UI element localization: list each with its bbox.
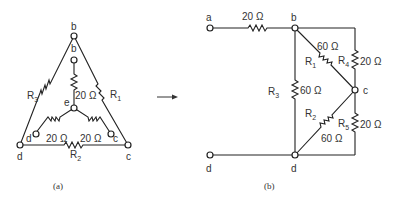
transform-arrow-icon xyxy=(157,95,178,100)
label-c-inner: c xyxy=(113,133,118,144)
resistor-ed-a xyxy=(35,108,74,134)
node-c-outer xyxy=(125,142,131,148)
caption-a: (a) xyxy=(53,181,63,191)
caption-b: (b) xyxy=(264,181,275,191)
label-r1-a: R1 xyxy=(110,89,121,102)
label-r3-value: 60 Ω xyxy=(300,85,322,96)
resistor-ec-a xyxy=(74,108,111,134)
resistor-ab-b xyxy=(210,25,295,31)
label-d-right: d xyxy=(291,163,297,174)
node-d-outer xyxy=(17,142,23,148)
resistor-r5-b xyxy=(352,90,358,155)
resistor-r4-b xyxy=(352,28,358,90)
label-ed-value: 20 Ω xyxy=(46,133,68,144)
label-b-inner: b xyxy=(71,43,77,54)
resistor-r2-b xyxy=(295,90,355,155)
label-eb-value: 20 Ω xyxy=(75,90,97,101)
label-r3-a: R3 xyxy=(27,90,38,103)
label-d-inner: d xyxy=(26,133,32,144)
label-r2-value: 60 Ω xyxy=(321,133,343,144)
label-c: c xyxy=(363,85,368,96)
resistor-r2-a xyxy=(20,142,128,148)
figure-a-delta-wye: b b e d d c c R3 R1 R2 20 Ω 20 Ω 20 Ω (a… xyxy=(17,21,131,191)
label-r1-value: 60 Ω xyxy=(317,41,339,52)
node-b xyxy=(292,25,298,31)
label-r4-b: R4 xyxy=(338,55,349,68)
label-ec-value: 20 Ω xyxy=(80,133,102,144)
circuit-diagram: b b e d d c c R3 R1 R2 20 Ω 20 Ω 20 Ω (a… xyxy=(0,0,396,202)
label-d-left: d xyxy=(206,163,212,174)
label-r2-a: R2 xyxy=(70,149,81,162)
label-b-outer: b xyxy=(71,21,77,32)
label-ab-value: 20 Ω xyxy=(242,11,264,22)
label-b: b xyxy=(291,12,297,23)
figure-b-equivalent: a b c d d 20 Ω R3 60 Ω R1 60 Ω R2 60 Ω R… xyxy=(206,11,382,191)
node-c xyxy=(352,87,358,93)
label-c-outer: c xyxy=(126,151,131,162)
node-d-inner xyxy=(33,131,39,137)
node-a xyxy=(207,25,213,31)
resistor-r1-b xyxy=(295,28,355,90)
label-a: a xyxy=(206,12,212,23)
label-r5-value: 20 Ω xyxy=(360,119,382,130)
node-d-right xyxy=(292,152,298,158)
label-r2-b: R2 xyxy=(305,108,316,121)
label-r1-b: R1 xyxy=(305,56,316,69)
node-b-outer xyxy=(71,33,77,39)
node-e xyxy=(71,105,77,111)
node-d-left xyxy=(207,152,213,158)
label-e: e xyxy=(64,97,70,108)
node-b-inner xyxy=(71,57,77,63)
label-r3-b: R3 xyxy=(268,86,279,99)
label-r4-value: 20 Ω xyxy=(360,56,382,67)
label-d-outer: d xyxy=(17,151,23,162)
resistor-r3-b xyxy=(292,28,298,155)
label-r5-b: R5 xyxy=(338,118,349,131)
